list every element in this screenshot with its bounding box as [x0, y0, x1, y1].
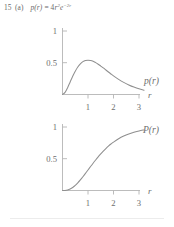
cumulative-yticklabel-0.5: 0.5 — [46, 154, 57, 164]
equation-function: p(r) — [31, 3, 43, 12]
problem-part: (a) — [15, 3, 24, 12]
density-xticklabel-2: 2 — [111, 102, 115, 112]
problem-number: 15 — [4, 3, 12, 12]
cumulative-xticklabel-2: 2 — [111, 198, 115, 208]
density-curve-label: p(r) — [143, 75, 159, 87]
density-plot: 1 0.5 1 2 3 r p(r) — [0, 22, 174, 114]
density-xticklabel-3: 3 — [137, 102, 141, 112]
page-separator-rule — [10, 218, 164, 219]
problem-header: 15 (a) p(r) = 4r2e−2r — [4, 3, 71, 12]
density-yticklabel-1: 1 — [53, 26, 57, 36]
equation-exponent: −2r — [63, 3, 71, 8]
problem-equation: p(r) = 4r2e−2r — [31, 3, 72, 12]
cumulative-xaxis-title: r — [148, 186, 152, 196]
density-yticklabel-0.5: 0.5 — [46, 58, 57, 68]
density-xaxis-title: r — [148, 90, 152, 100]
density-curve — [63, 60, 145, 94]
cumulative-plot: 1 0.5 1 2 3 r P(r) — [0, 118, 174, 210]
figure-page: 15 (a) p(r) = 4r2e−2r 1 0.5 1 2 3 r — [0, 0, 174, 227]
density-xticklabel-1: 1 — [86, 102, 90, 112]
density-plot-svg: 1 0.5 1 2 3 r p(r) — [0, 22, 174, 114]
cumulative-xticklabel-3: 3 — [137, 198, 141, 208]
cumulative-yticklabel-1: 1 — [53, 122, 57, 132]
cumulative-xticklabel-1: 1 — [86, 198, 90, 208]
equation-equals: = — [44, 3, 48, 12]
cumulative-plot-svg: 1 0.5 1 2 3 r P(r) — [0, 118, 174, 210]
cumulative-curve — [63, 130, 145, 191]
